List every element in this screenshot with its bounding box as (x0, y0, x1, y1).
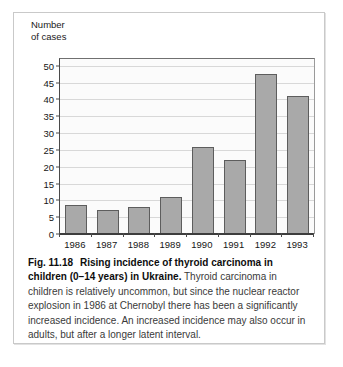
y-axis-tick-mark (56, 217, 60, 218)
x-axis-tick-mark (154, 233, 155, 237)
x-axis-tick-mark (281, 233, 282, 237)
figure-caption: Fig. 11.18Rising incidence of thyroid ca… (28, 256, 314, 342)
y-axis-tick-label: 5 (49, 212, 54, 223)
x-axis-tick-label: 1992 (255, 239, 276, 250)
figure-number: Fig. 11.18 (28, 257, 73, 268)
y-axis-tick-label: 45 (43, 77, 54, 88)
x-axis-tick-mark (186, 233, 187, 237)
x-axis-tick-mark (59, 233, 60, 237)
x-axis-tick-mark (91, 233, 92, 237)
y-axis-tick-label: 50 (43, 60, 54, 71)
y-axis-tick-mark (56, 99, 60, 100)
y-axis-tick-label: 15 (43, 178, 54, 189)
bar-1989 (160, 197, 182, 234)
y-axis-tick-label: 0 (49, 229, 54, 240)
plot-area: 05101520253035404550 (59, 58, 315, 234)
bar-series (60, 59, 314, 234)
bar-1988 (128, 207, 150, 234)
x-axis-tick-label: 1986 (64, 239, 85, 250)
figure-container: Number of cases 05101520253035404550 198… (13, 12, 325, 344)
y-axis-tick-mark (56, 133, 60, 134)
y-axis-tick-mark (56, 116, 60, 117)
y-axis-tick-label: 30 (43, 128, 54, 139)
y-axis-title: Number of cases (31, 19, 66, 42)
y-axis-tick-mark (56, 65, 60, 66)
bar-1992 (255, 74, 277, 234)
x-axis-tick-label: 1988 (128, 239, 149, 250)
x-axis-tick-label: 1991 (223, 239, 244, 250)
bar-1990 (192, 147, 214, 235)
x-axis-tick-mark (250, 233, 251, 237)
chart-region: Number of cases 05101520253035404550 198… (14, 13, 326, 246)
y-axis-tick-mark (56, 82, 60, 83)
bar-1993 (287, 96, 309, 234)
x-axis-tick-mark (218, 233, 219, 237)
y-axis-tick-label: 10 (43, 195, 54, 206)
x-axis-tick-label: 1990 (191, 239, 212, 250)
x-axis-tick-mark (123, 233, 124, 237)
y-axis-tick-mark (56, 200, 60, 201)
bar-1986 (65, 205, 87, 234)
y-axis-tick-mark (56, 149, 60, 150)
bar-1987 (97, 210, 119, 234)
y-axis-tick-mark (56, 166, 60, 167)
x-axis-tick-label: 1987 (96, 239, 117, 250)
x-axis-tick-mark (313, 233, 314, 237)
y-axis-tick-label: 35 (43, 111, 54, 122)
x-axis-tick-label: 1989 (160, 239, 181, 250)
y-axis-tick-label: 25 (43, 144, 54, 155)
y-axis-tick-label: 40 (43, 94, 54, 105)
bar-1991 (224, 160, 246, 234)
y-axis-tick-label: 20 (43, 161, 54, 172)
y-axis-tick-mark (56, 183, 60, 184)
x-axis-tick-label: 1993 (287, 239, 308, 250)
